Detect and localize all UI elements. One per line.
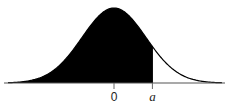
shaded-area-left-of-a <box>8 8 152 83</box>
tick-label-zero: 0 <box>111 90 118 104</box>
tick-label-a: a <box>149 89 156 104</box>
normal-curve-chart: 0 a <box>0 0 229 112</box>
